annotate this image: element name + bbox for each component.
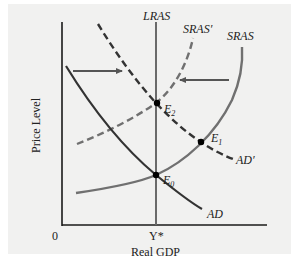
ad-curve: [66, 66, 202, 209]
point-e1: [198, 139, 204, 145]
point-e2: [154, 100, 160, 106]
ad-as-diagram: LRAS SRAS′ SRAS AD′ AD E2 E1 E0 0 Y* Rea…: [0, 0, 305, 266]
e0-label: E0: [162, 173, 174, 189]
y-star-tick-label: Y*: [149, 229, 164, 243]
ad-label: AD: [206, 207, 223, 221]
sras-prime-label: SRAS′: [183, 22, 213, 36]
x-axis-label: Real GDP: [131, 245, 180, 259]
lras-label: LRAS: [142, 9, 170, 23]
origin-label: 0: [52, 229, 58, 243]
e2-label: E2: [163, 102, 175, 118]
sras-curve: [76, 47, 242, 193]
ad-prime-label: AD′: [235, 153, 255, 167]
sras-prime-curve: [77, 38, 193, 144]
y-axis-label: Price Level: [29, 97, 43, 153]
e1-label: E1: [210, 131, 222, 147]
sras-label: SRAS: [227, 29, 254, 43]
point-e0: [153, 172, 159, 178]
